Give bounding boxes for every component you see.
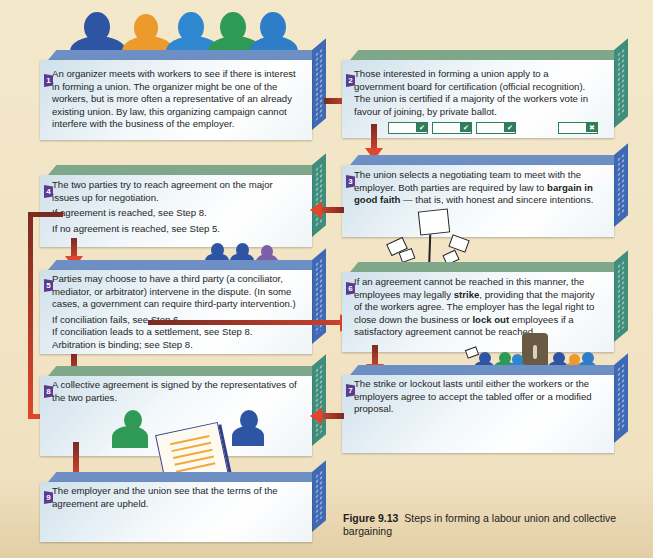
arrow-4-to-5-shaft <box>71 238 77 258</box>
box-side-face <box>312 38 326 130</box>
step-4-if-agreement: If agreement is reached, see Step 8. <box>52 207 298 220</box>
step-2-text: Those interested in forming a union appl… <box>354 68 600 118</box>
step-1-box: 1 An organizer meets with workers to see… <box>40 60 312 140</box>
figure-caption: Figure 9.13 Steps in forming a labour un… <box>343 512 643 538</box>
step-5-box: 5 Parties may choose to have a third par… <box>40 270 312 354</box>
step-7-box: 7 The strike or lockout lasts until eith… <box>342 375 614 453</box>
box-side-face <box>614 38 628 128</box>
step-3-text: The union selects a negotiating team to … <box>354 169 600 207</box>
ballot-yes: ✔ <box>476 122 516 134</box>
step-1-text: An organizer meets with workers to see i… <box>52 68 298 131</box>
arrow-5-to-6-shaft <box>148 320 344 325</box>
step-number-badge: 8 <box>44 385 53 398</box>
step-5-if-settlement: If conciliation leads to a settlement, s… <box>52 326 298 351</box>
step-4-if-no-agreement: If no agreement is reached, see Step 5. <box>52 223 298 236</box>
box-side-face <box>614 353 628 443</box>
arrow-7-to-8-shaft <box>322 413 344 419</box>
box-top-face <box>48 260 322 270</box>
step-4-text: The two parties try to reach agreement o… <box>52 179 298 204</box>
box-top-face <box>48 366 322 376</box>
box-side-face <box>312 153 326 237</box>
ballot-yes: ✔ <box>432 122 472 134</box>
box-top-face <box>48 472 322 482</box>
step-4-box: 4 The two parties try to reach agreement… <box>40 175 312 247</box>
box-side-face <box>312 354 326 446</box>
step-number-badge: 4 <box>44 185 53 198</box>
check-icon: ✔ <box>416 123 427 132</box>
check-icon: ✔ <box>504 123 515 132</box>
box-side-face <box>614 143 628 227</box>
arrow-left-icon <box>310 201 322 219</box>
step-number-badge: 2 <box>346 74 355 87</box>
box-side-face <box>312 248 326 344</box>
person-icon <box>112 410 150 446</box>
step-8-text: A collective agreement is signed by the … <box>52 379 298 404</box>
box-top-face <box>48 165 322 175</box>
step-6-text: If an agreement cannot be reached in thi… <box>354 276 600 339</box>
step-number-badge: 5 <box>44 279 53 292</box>
step-3-box: 3 The union selects a negotiating team t… <box>342 165 614 237</box>
step-number-badge: 6 <box>346 282 355 295</box>
figure-label: Figure 9.13 <box>343 512 398 524</box>
arrow-3-to-4-shaft <box>322 207 344 213</box>
step-6-box: 6 If an agreement cannot be reached in t… <box>342 272 614 352</box>
step-number-badge: 7 <box>346 384 355 397</box>
box-side-face <box>312 460 326 532</box>
step-5-text: Parties may choose to have a third party… <box>52 273 298 311</box>
step-number-badge: 9 <box>44 491 53 504</box>
step-2-box: 2 Those interested in forming a union ap… <box>342 60 614 138</box>
connector-4-to-8-vertical <box>28 212 33 418</box>
box-top-face <box>350 365 624 375</box>
step-9-text: The employer and the union see that the … <box>52 485 298 510</box>
arrow-8-to-9-shaft <box>73 442 79 474</box>
step-number-badge: 1 <box>44 74 53 87</box>
ballot-yes: ✔ <box>388 122 428 134</box>
arrow-left-icon <box>310 407 322 425</box>
step-9-box: 9 The employer and the union see that th… <box>40 482 312 542</box>
box-top-face <box>350 262 624 272</box>
diagram-canvas: 1 An organizer meets with workers to see… <box>0 0 653 558</box>
arrow-2-to-3-shaft <box>371 124 377 150</box>
person-icon <box>232 410 266 444</box>
step-number-badge: 3 <box>346 175 355 188</box>
box-top-face <box>48 50 322 60</box>
box-top-face <box>350 50 624 60</box>
connector-4-to-8 <box>33 212 63 217</box>
box-side-face <box>614 250 628 342</box>
step-7-text: The strike or lockout lasts until either… <box>354 378 600 416</box>
check-icon: ✔ <box>460 123 471 132</box>
cross-icon: ✖ <box>586 123 597 132</box>
protest-sign-icon <box>418 208 450 235</box>
ballot-no: ✖ <box>558 122 598 134</box>
box-top-face <box>350 155 624 165</box>
